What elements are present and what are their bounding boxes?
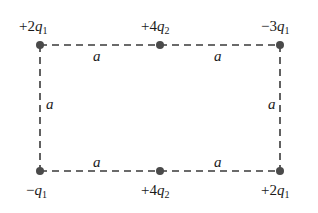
segment-label-right: a	[268, 97, 276, 112]
charge-dot-bottom-right	[276, 167, 284, 175]
segment-label-bottom-left: a	[93, 155, 101, 170]
charge-label-top-left: +2q1	[19, 19, 47, 34]
charge-label-top-middle: +4q2	[141, 19, 169, 34]
charge-dot-top-left	[36, 41, 44, 49]
charge-label-bottom-left: −q1	[26, 183, 47, 198]
charge-dot-top-right	[276, 41, 284, 49]
segment-label-left: a	[46, 97, 54, 112]
charge-label-top-right: −3q1	[261, 19, 289, 34]
charge-dot-top-middle	[156, 41, 164, 49]
segment-label-top-left: a	[93, 49, 101, 64]
segment-label-bottom-right: a	[214, 155, 222, 170]
segment-label-top-right: a	[214, 49, 222, 64]
charge-label-bottom-middle: +4q2	[141, 183, 169, 198]
charge-dot-bottom-left	[36, 167, 44, 175]
charge-label-bottom-right: +2q1	[261, 183, 289, 198]
charge-dot-bottom-middle	[156, 167, 164, 175]
